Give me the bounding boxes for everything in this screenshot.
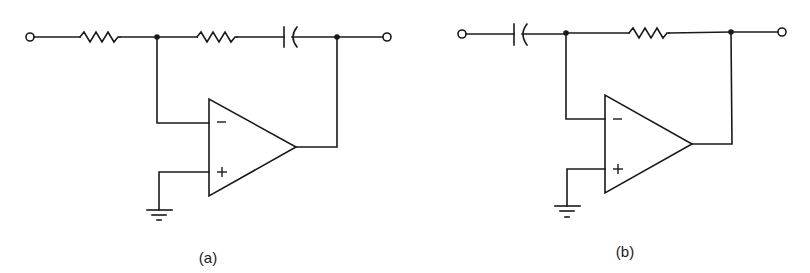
circuit-label-b: (b) (616, 243, 634, 260)
input-terminal-a (26, 33, 34, 41)
resistor-icon (197, 32, 237, 42)
wire (159, 172, 209, 210)
wire (296, 37, 337, 147)
circuit-label-a: (a) (199, 249, 217, 266)
circuit-a: (a) (26, 27, 391, 266)
ground-icon (555, 206, 580, 217)
wire (566, 33, 605, 119)
output-terminal-a (383, 33, 391, 41)
wire (157, 37, 209, 123)
wire (567, 169, 605, 206)
wire (669, 32, 731, 33)
ground-icon (147, 210, 172, 220)
input-terminal-b (458, 30, 466, 38)
op-amp-icon (605, 95, 692, 193)
op-amp-icon (209, 99, 296, 196)
resistor-icon (80, 32, 120, 42)
output-terminal-b (778, 28, 786, 36)
resistor-icon (629, 28, 669, 38)
wire (692, 32, 732, 144)
circuit-diagram: (a) (b) (0, 0, 810, 273)
circuit-b: (b) (458, 24, 786, 260)
